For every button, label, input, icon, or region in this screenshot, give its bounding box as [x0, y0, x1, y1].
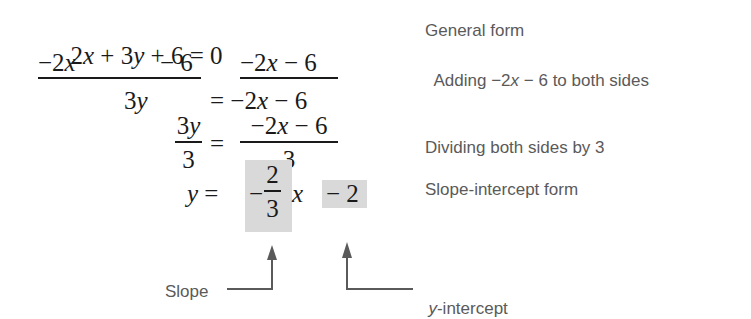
y-intercept-label: y-intercept	[419, 283, 508, 317]
slope-arrow-icon	[227, 245, 277, 289]
intercept-arrow-icon	[342, 242, 413, 289]
slope-label: Slope	[165, 283, 208, 300]
annotation-arrows	[0, 0, 751, 319]
